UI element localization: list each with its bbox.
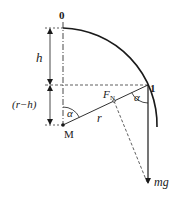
label-point-1: 1	[150, 82, 156, 94]
label-weight: mg	[154, 175, 169, 189]
label-h: h	[36, 50, 43, 65]
label-normal-force-subscript: N	[110, 94, 115, 102]
circular-track-arc	[63, 28, 157, 127]
label-normal-force: F	[102, 88, 110, 100]
physics-diagram: 0 1 h (r−h) M r α α F N mg	[0, 0, 181, 201]
label-angle-center: α	[67, 107, 73, 119]
label-angle-point1: α	[134, 91, 140, 103]
label-center-m: M	[64, 128, 74, 140]
force-component-dashed	[114, 101, 147, 182]
label-point-top: 0	[59, 9, 65, 21]
label-radius: r	[97, 111, 102, 125]
label-r-minus-h: (r−h)	[12, 98, 37, 111]
center-point	[61, 123, 65, 127]
